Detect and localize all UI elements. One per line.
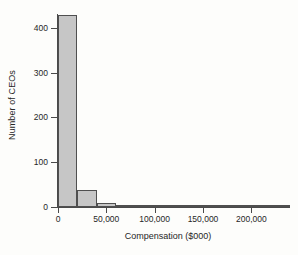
histogram-bar [271, 205, 290, 207]
y-tick-label: 100 [8, 158, 48, 167]
x-tick-mark [155, 208, 156, 213]
histogram-bar [251, 205, 270, 207]
histogram-bar [116, 205, 135, 207]
histogram-bar [135, 205, 154, 207]
x-tick-mark [58, 208, 59, 213]
x-tick-mark [106, 208, 107, 213]
y-tick-mark [51, 207, 57, 208]
y-tick-label: 0 [8, 203, 48, 212]
x-axis-line [57, 207, 290, 208]
histogram-bar [97, 203, 116, 207]
x-axis-title: Compensation ($000) [58, 231, 278, 241]
histogram-bar [77, 190, 96, 207]
y-tick-mark [51, 73, 57, 74]
y-tick-label: 200 [8, 113, 48, 122]
y-tick-mark [51, 117, 57, 118]
y-tick-mark [51, 28, 57, 29]
x-tick-mark [203, 208, 204, 213]
histogram-bar [174, 205, 193, 207]
x-tick-label: 200,000 [223, 215, 279, 224]
histogram-bar [155, 205, 174, 207]
histogram-bars [58, 10, 290, 207]
x-tick-mark [251, 208, 252, 213]
histogram-figure: Number of CEOs Compensation ($000) 01002… [0, 0, 298, 255]
histogram-bar [232, 205, 251, 207]
histogram-bar [58, 15, 77, 207]
y-tick-mark [51, 162, 57, 163]
histogram-bar [213, 205, 232, 207]
y-tick-label: 400 [8, 24, 48, 33]
y-axis-title-text: Number of CEOs [7, 70, 17, 140]
y-tick-label: 300 [8, 69, 48, 78]
histogram-bar [193, 205, 212, 207]
